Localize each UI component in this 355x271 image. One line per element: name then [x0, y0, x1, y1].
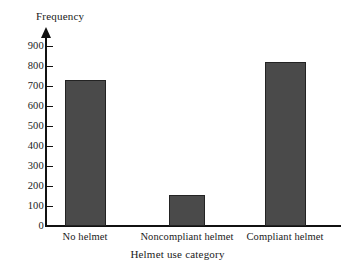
- y-tick-mark: [47, 66, 53, 67]
- y-tick-label: 500: [28, 121, 44, 132]
- y-tick-mark: [47, 106, 53, 107]
- y-tick-mark: [47, 226, 53, 227]
- x-axis-title: Helmet use category: [0, 248, 355, 260]
- category-label: Compliant helmet: [210, 231, 355, 242]
- y-tick-mark: [47, 126, 53, 127]
- bar-chart-figure: Frequency 0100200300400500600700800900 N…: [0, 0, 355, 271]
- y-tick-mark: [47, 86, 53, 87]
- y-tick-label: 600: [28, 101, 44, 112]
- y-tick-label: 400: [28, 141, 44, 152]
- y-tick-label: 700: [28, 81, 44, 92]
- y-tick-label: 300: [28, 161, 44, 172]
- y-tick-label: 0: [39, 221, 44, 232]
- y-tick-mark: [47, 206, 53, 207]
- y-axis-title: Frequency: [36, 10, 84, 22]
- y-tick-label: 200: [28, 181, 44, 192]
- y-tick-mark: [47, 46, 53, 47]
- y-tick-mark: [47, 166, 53, 167]
- y-tick-label: 100: [28, 201, 44, 212]
- y-axis-line: [45, 36, 47, 227]
- bar: [65, 80, 106, 226]
- bar: [169, 195, 205, 226]
- y-tick-mark: [47, 186, 53, 187]
- bar: [265, 62, 306, 226]
- y-tick-label: 800: [28, 61, 44, 72]
- y-tick-mark: [47, 146, 53, 147]
- y-tick-label: 900: [28, 41, 44, 52]
